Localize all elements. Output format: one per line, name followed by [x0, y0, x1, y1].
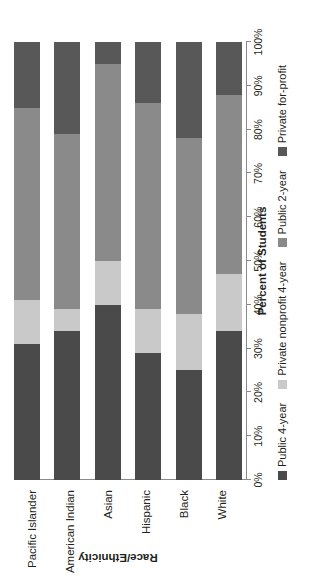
bar-segment	[176, 42, 202, 138]
chart-legend: Public 4-yearPrivate nonprofit 4-yearPub…	[276, 10, 288, 480]
bars-region: 0%10%20%30%40%50%60%70%80%90%100%	[14, 42, 242, 480]
bar-segment	[14, 300, 40, 344]
legend-item[interactable]: Private for-profit	[276, 65, 288, 156]
category-label: American Indian	[52, 484, 90, 580]
category-label: White	[204, 484, 242, 580]
bar-segment	[95, 64, 121, 261]
bar-segment	[176, 138, 202, 313]
bar-row	[95, 42, 121, 480]
bar-segment	[54, 134, 80, 309]
bar-segment	[135, 353, 161, 480]
legend-item[interactable]: Private nonprofit 4-year	[276, 261, 288, 388]
bar-segment	[95, 305, 121, 480]
bar-segment	[95, 261, 121, 305]
chart-plot-area: Race/Ethnicity Pacific IslanderAmerican …	[0, 0, 310, 580]
category-axis-labels: Pacific IslanderAmerican IndianAsianHisp…	[14, 484, 242, 580]
bar-segment	[216, 95, 242, 275]
category-label: Hispanic	[128, 484, 166, 580]
bar-row	[54, 42, 80, 480]
legend-swatch-icon	[278, 380, 287, 389]
legend-swatch-icon	[278, 238, 287, 247]
legend-swatch-icon	[278, 147, 287, 156]
legend-label: Public 4-year	[276, 403, 288, 467]
chart-figure: Race/Ethnicity Pacific IslanderAmerican …	[0, 0, 310, 580]
axis-tick	[246, 435, 251, 436]
axis-tick	[246, 348, 251, 349]
legend-label: Public 2-year	[276, 170, 288, 234]
bar-segment	[216, 42, 242, 95]
category-label: Asian	[90, 484, 128, 580]
bar-row	[135, 42, 161, 480]
axis-tick	[246, 172, 251, 173]
bar-segment	[54, 331, 80, 480]
bar-segment	[216, 274, 242, 331]
axis-tick	[246, 304, 251, 305]
category-label: Black	[166, 484, 204, 580]
value-axis-title: Percent of Students	[256, 42, 268, 480]
stacked-bars	[14, 42, 242, 480]
legend-item[interactable]: Public 2-year	[276, 170, 288, 247]
axis-tick	[246, 391, 251, 392]
legend-label: Private nonprofit 4-year	[276, 261, 288, 375]
bar-segment	[14, 344, 40, 480]
bar-segment	[135, 103, 161, 309]
bar-row	[14, 42, 40, 480]
category-label: Pacific Islander	[14, 484, 52, 580]
axis-tick	[246, 129, 251, 130]
bar-segment	[176, 371, 202, 481]
bar-row	[216, 42, 242, 480]
bar-segment	[14, 108, 40, 301]
bar-segment	[54, 309, 80, 331]
axis-tick	[246, 260, 251, 261]
value-axis-ticks	[246, 42, 251, 480]
bar-segment	[54, 42, 80, 134]
axis-tick	[246, 41, 251, 42]
axis-tick	[246, 85, 251, 86]
legend-swatch-icon	[278, 471, 287, 480]
legend-label: Private for-profit	[276, 65, 288, 143]
axis-tick	[246, 216, 251, 217]
legend-item[interactable]: Public 4-year	[276, 403, 288, 480]
bar-segment	[135, 42, 161, 103]
bar-segment	[135, 309, 161, 353]
axis-tick	[246, 479, 251, 480]
bar-segment	[14, 42, 40, 108]
bar-row	[176, 42, 202, 480]
bar-segment	[176, 314, 202, 371]
bar-segment	[216, 331, 242, 480]
bar-segment	[95, 42, 121, 64]
